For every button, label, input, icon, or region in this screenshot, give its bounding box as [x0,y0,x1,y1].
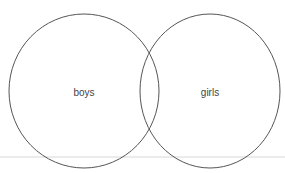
set-label-girls: girls [201,87,219,98]
venn-diagram [0,0,285,173]
set-label-boys: boys [73,87,94,98]
